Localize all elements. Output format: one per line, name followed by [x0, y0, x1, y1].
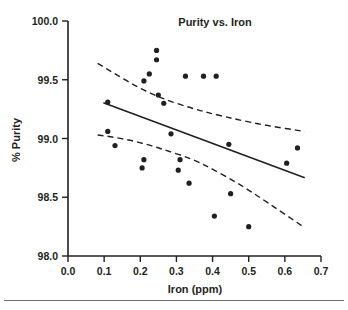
data-point: [105, 129, 110, 134]
y-axis-title: % Purity: [10, 117, 22, 162]
y-tick-label: 100.0: [32, 15, 58, 27]
lower-confidence-band: [98, 135, 305, 228]
data-point: [139, 165, 144, 170]
data-point: [214, 74, 219, 79]
x-axis-ticks: [68, 256, 321, 262]
y-tick-label: 98.0: [38, 250, 59, 262]
axes-group: [68, 21, 321, 256]
data-point: [147, 71, 152, 76]
x-tick-label: 0.0: [61, 265, 76, 277]
data-point: [161, 101, 166, 106]
upper-confidence-band: [98, 63, 305, 131]
x-tick-label: 0.7: [314, 265, 329, 277]
y-tick-label: 99.5: [38, 74, 59, 86]
data-point: [246, 224, 251, 229]
data-point: [105, 99, 110, 104]
x-tick-label: 0.6: [278, 265, 293, 277]
data-point: [295, 145, 300, 150]
data-point: [176, 168, 181, 173]
data-point: [183, 74, 188, 79]
y-axis-tick-labels: 98.098.599.099.5100.0: [32, 15, 58, 262]
x-tick-label: 0.3: [169, 265, 184, 277]
data-point: [112, 143, 117, 148]
chart-title: Purity vs. Iron: [178, 16, 252, 28]
x-tick-label: 0.4: [205, 265, 220, 277]
data-point: [168, 131, 173, 136]
x-axis-title: Iron (ppm): [168, 283, 223, 295]
x-tick-label: 0.2: [133, 265, 148, 277]
y-axis-ticks: [62, 21, 68, 256]
data-point: [156, 92, 161, 97]
y-tick-label: 98.5: [38, 191, 59, 203]
regression-line: [103, 103, 304, 178]
y-tick-label: 99.0: [38, 133, 59, 145]
footer-divider: [4, 300, 344, 301]
data-point: [154, 48, 159, 53]
x-tick-label: 0.5: [241, 265, 256, 277]
chart-figure: 98.098.599.099.5100.0 0.00.10.20.30.40.5…: [0, 0, 348, 310]
data-point: [186, 181, 191, 186]
data-point: [284, 161, 289, 166]
x-tick-label: 0.1: [97, 265, 112, 277]
data-point: [141, 157, 146, 162]
data-point: [226, 142, 231, 147]
scatter-plot-svg: 98.098.599.099.5100.0 0.00.10.20.30.40.5…: [0, 0, 348, 310]
data-point: [212, 213, 217, 218]
data-point: [228, 191, 233, 196]
data-point: [154, 57, 159, 62]
x-axis-tick-labels: 0.00.10.20.30.40.50.60.7: [61, 265, 329, 277]
data-point-group: [105, 48, 300, 229]
data-point: [201, 74, 206, 79]
data-point: [177, 157, 182, 162]
data-point: [141, 78, 146, 83]
